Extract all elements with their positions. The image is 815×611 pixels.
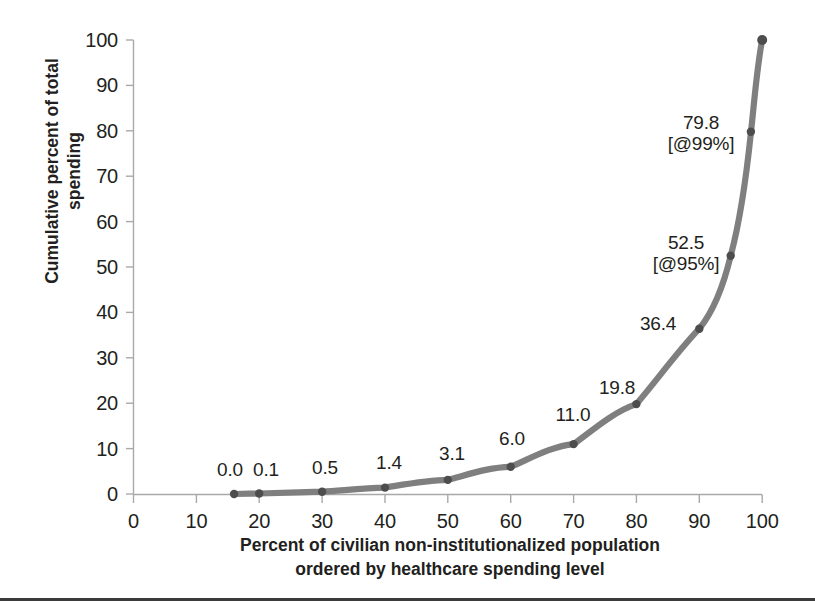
annotation-p99: 79.8 [@99%] <box>660 112 742 154</box>
annotation-p20: 0.1 <box>245 459 287 480</box>
x-tick-label-60: 60 <box>481 511 541 531</box>
annotation-p99-value: 79.8 <box>683 112 719 133</box>
y-axis-title: Cumulative percent of total spending <box>41 11 87 331</box>
annotation-p95-value: 52.5 <box>668 232 704 253</box>
marker-p95 <box>727 252 735 260</box>
marker-p99 <box>747 128 755 136</box>
annotation-p40: 1.4 <box>368 452 410 473</box>
bottom-divider <box>0 598 815 601</box>
annotation-p80: 19.8 <box>592 377 642 398</box>
x-tick-label-40: 40 <box>355 511 415 531</box>
cumulative-spending-chart: 100 90 80 70 60 50 40 30 20 10 0 0 10 20… <box>0 0 815 611</box>
annotation-p95-percentile: [@95%] <box>645 253 727 274</box>
x-tick-label-10: 10 <box>166 511 226 531</box>
marker-p30 <box>318 488 326 496</box>
marker-p80 <box>632 400 640 408</box>
x-tick-label-80: 80 <box>606 511 666 531</box>
y-tick-label-30: 30 <box>72 348 118 368</box>
y-axis-title-line2: spending <box>63 11 85 331</box>
x-tick-label-20: 20 <box>229 511 289 531</box>
annotation-p50: 3.1 <box>431 443 473 464</box>
y-axis-ticks <box>126 40 134 494</box>
marker-p50 <box>444 476 452 484</box>
annotation-p90: 36.4 <box>633 313 683 334</box>
marker-p70 <box>569 440 577 448</box>
annotation-p70: 11.0 <box>548 404 598 425</box>
marker-p40 <box>381 483 389 491</box>
annotation-p30: 0.5 <box>304 457 346 478</box>
x-tick-label-100: 100 <box>732 511 792 531</box>
x-axis-title-line2: ordered by healthcare spending level <box>120 557 780 581</box>
annotation-p99-percentile: [@99%] <box>660 133 742 154</box>
marker-p100 <box>757 35 767 45</box>
marker-p60 <box>507 463 515 471</box>
marker-p16 <box>230 490 238 498</box>
x-tick-label-50: 50 <box>418 511 478 531</box>
y-axis-title-line1: Cumulative percent of total <box>41 11 63 331</box>
x-tick-label-30: 30 <box>292 511 352 531</box>
y-tick-label-10: 10 <box>72 439 118 459</box>
annotation-p60: 6.0 <box>491 428 533 449</box>
x-tick-label-70: 70 <box>544 511 604 531</box>
x-axis-ticks <box>134 495 763 504</box>
marker-p90 <box>695 325 703 333</box>
y-tick-label-20: 20 <box>72 393 118 413</box>
x-tick-label-0: 0 <box>104 511 164 531</box>
marker-p20 <box>255 489 263 497</box>
annotation-p95: 52.5 [@95%] <box>645 232 727 274</box>
x-axis-title: Percent of civilian non-institutionalize… <box>120 533 780 581</box>
x-axis-title-line1: Percent of civilian non-institutionalize… <box>120 533 780 557</box>
y-tick-label-0: 0 <box>72 484 118 504</box>
x-tick-label-90: 90 <box>669 511 729 531</box>
